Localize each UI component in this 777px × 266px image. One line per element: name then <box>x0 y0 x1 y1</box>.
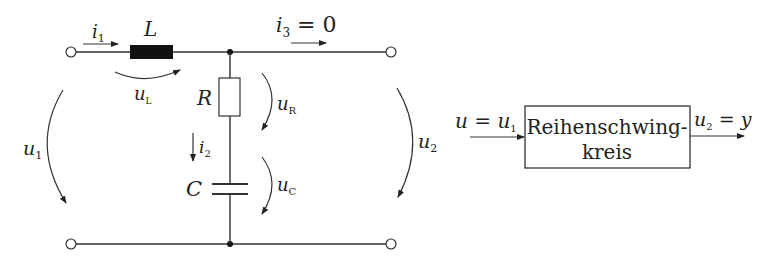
block-output-label: u2 = y <box>694 108 752 132</box>
output-terminal-bottom <box>386 239 396 249</box>
output-terminal-top <box>386 47 396 57</box>
label-u1: u1 <box>23 137 42 162</box>
label-R: R <box>196 86 212 110</box>
label-uL: uL <box>134 83 152 106</box>
circuit-svg: i1 L uL i3 = 0 R uR i2 C uC u1 u2 u = u1… <box>0 0 777 266</box>
uL-arrow <box>115 70 180 79</box>
top-wire <box>66 45 396 59</box>
label-u2: u2 <box>418 130 437 155</box>
rc-branch <box>212 52 248 244</box>
resistor-R <box>219 78 240 116</box>
input-terminal-bottom <box>66 239 76 249</box>
diagram-canvas: i1 L uL i3 = 0 R uR i2 C uC u1 u2 u = u1… <box>0 0 777 266</box>
uR-arrow <box>262 73 272 130</box>
block-title-line1: Reihenschwing- <box>526 115 687 139</box>
label-C: C <box>186 177 202 201</box>
u1-arrow <box>47 90 66 203</box>
label-i2: i2 <box>199 137 211 159</box>
uC-arrow <box>262 157 272 214</box>
label-i1: i1 <box>92 21 105 45</box>
label-L: L <box>143 17 157 41</box>
label-uC: uC <box>277 174 297 197</box>
block-input-label: u = u1 <box>455 109 517 134</box>
block-title-line2: kreis <box>582 140 632 164</box>
input-terminal-top <box>66 47 76 57</box>
label-i3: i3 = 0 <box>276 12 336 40</box>
inductor-L <box>130 45 173 59</box>
label-uR: uR <box>277 93 297 116</box>
block-diagram: u = u1 Reihenschwing- kreis u2 = y <box>455 106 752 168</box>
u2-arrow <box>397 88 413 197</box>
bottom-wire <box>66 239 396 249</box>
